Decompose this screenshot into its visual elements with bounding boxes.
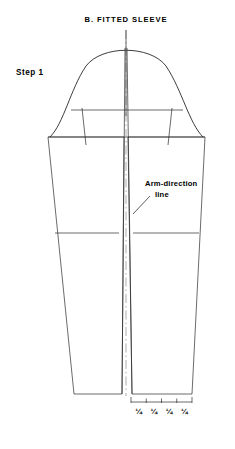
measurement-label: ¼ xyxy=(166,407,174,416)
step-label: Step 1 xyxy=(16,68,44,77)
sleeve-cap-curve xyxy=(50,50,203,137)
measurement-scale-bar xyxy=(131,397,192,403)
measurement-label: ¼ xyxy=(181,407,189,416)
pattern-diagram-sheet: B. FITTED SLEEVE Step 1 Arm-directio xyxy=(0,0,235,449)
sleeve-panel-left xyxy=(48,137,124,394)
sleeve-panel-right xyxy=(128,137,205,394)
notch-tick-right xyxy=(168,108,172,145)
notch-tick-left xyxy=(82,108,86,145)
measurement-labels: ¼¼¼¼ xyxy=(135,407,189,416)
measurement-label: ¼ xyxy=(151,407,159,416)
page-title: B. FITTED SLEEVE xyxy=(85,15,168,24)
callout-line-2: line xyxy=(155,190,169,199)
sleeve-cap-curve-group xyxy=(50,50,203,137)
measurement-label: ¼ xyxy=(135,407,143,416)
split-line-right xyxy=(127,48,132,394)
split-line-left xyxy=(122,48,125,394)
callout-line-1: Arm-direction xyxy=(145,179,198,188)
sleeve-pattern-svg: B. FITTED SLEEVE Step 1 Arm-directio xyxy=(0,0,235,449)
callout-leader-line xyxy=(133,196,150,214)
